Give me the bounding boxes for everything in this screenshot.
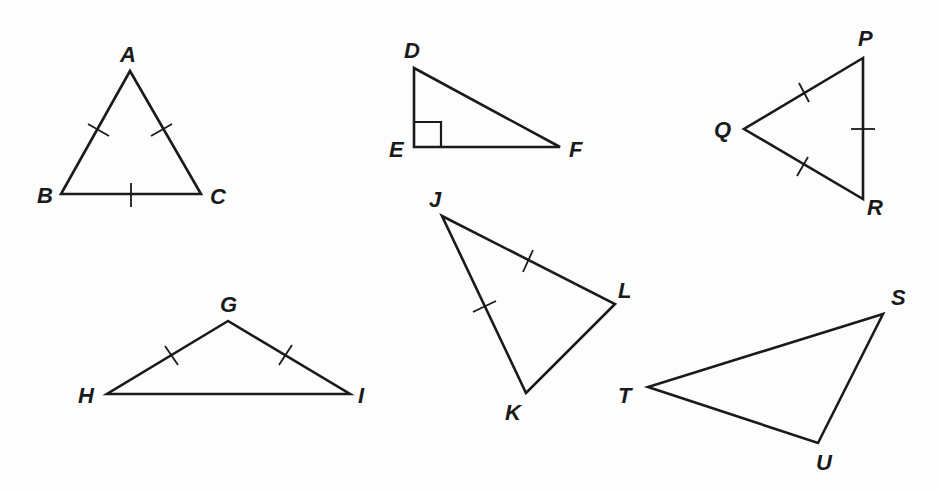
geometry-figure: A B C D E F P Q R G H I (0, 0, 938, 492)
vertex-label-g: G (220, 292, 237, 317)
triangle-stu-shape (648, 314, 883, 443)
triangle-stu: S T U (618, 285, 906, 475)
vertex-label-h: H (78, 383, 95, 408)
tick-mark-gi (279, 345, 292, 365)
triangle-jkl: J K L (429, 187, 631, 425)
triangle-def: D E F (389, 38, 583, 162)
tick-mark-gh (165, 346, 178, 365)
vertex-label-j: J (429, 187, 442, 212)
vertex-label-a: A (119, 42, 136, 67)
vertex-label-f: F (569, 137, 583, 162)
vertex-label-u: U (816, 450, 833, 475)
vertex-label-i: I (358, 383, 365, 408)
triangle-pqr: P Q R (714, 26, 883, 220)
vertex-label-q: Q (714, 117, 731, 142)
triangle-abc-shape (61, 71, 201, 194)
vertex-label-c: C (210, 184, 227, 209)
vertex-label-t: T (618, 383, 633, 408)
vertex-label-l: L (618, 278, 631, 303)
vertex-label-b: B (37, 183, 53, 208)
triangle-abc: A B C (37, 42, 227, 209)
triangle-ghi-shape (107, 321, 350, 394)
right-angle-marker-e (414, 122, 441, 147)
vertex-label-k: K (505, 400, 523, 425)
vertex-label-d: D (404, 38, 420, 63)
vertex-label-e: E (389, 137, 405, 162)
triangle-jkl-shape (442, 216, 615, 393)
triangle-ghi: G H I (78, 292, 365, 408)
vertex-label-s: S (891, 285, 906, 310)
vertex-label-r: R (867, 195, 883, 220)
vertex-label-p: P (858, 26, 873, 51)
triangle-def-shape (414, 68, 560, 147)
triangles-svg: A B C D E F P Q R G H I (0, 0, 938, 492)
triangle-pqr-shape (744, 58, 863, 199)
